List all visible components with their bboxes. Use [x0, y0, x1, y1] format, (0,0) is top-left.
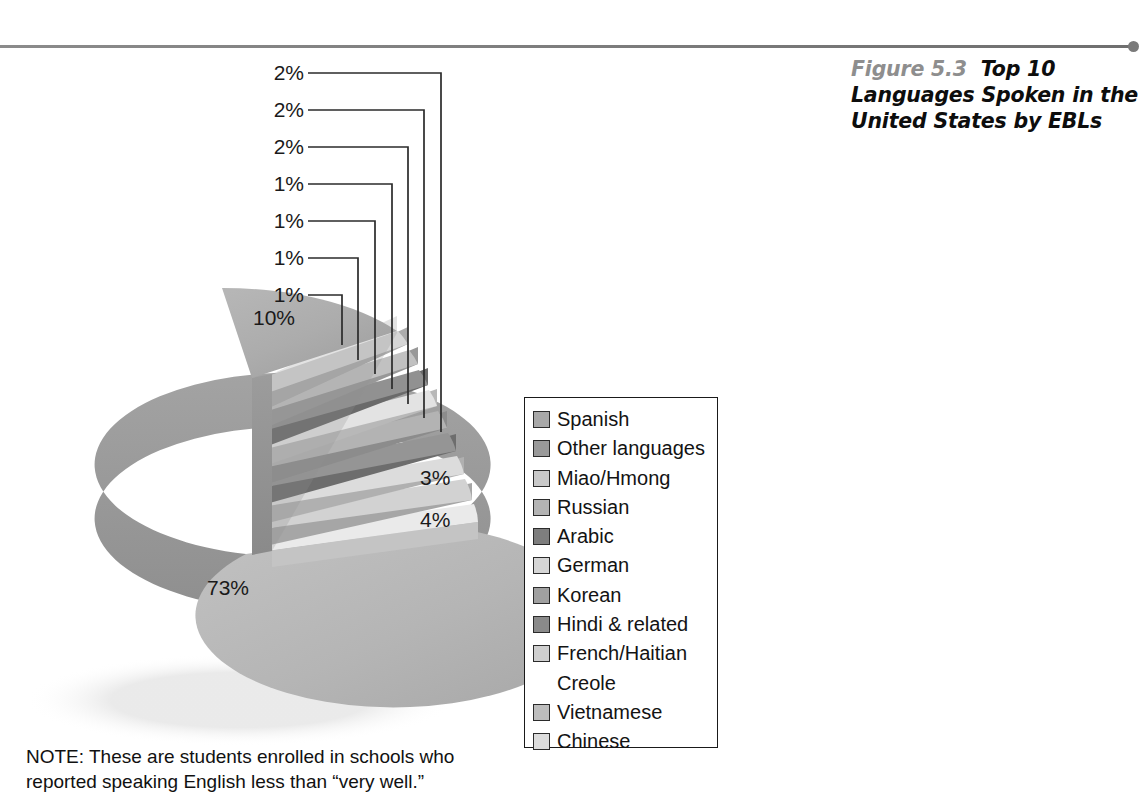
legend-item-label-continuation: Creole [533, 669, 717, 698]
legend-item-label: Other languages [557, 434, 705, 463]
chart-legend: SpanishOther languagesMiao/HmongRussianA… [524, 397, 718, 748]
legend-item[interactable]: Hindi & related [533, 610, 717, 639]
legend-item[interactable]: Spanish [533, 405, 717, 434]
legend-item[interactable]: French/Haitian [533, 639, 717, 668]
legend-swatch-icon [533, 704, 550, 721]
legend-item[interactable]: German [533, 551, 717, 580]
pie-label-3-percent: 3% [420, 466, 450, 490]
legend-item[interactable]: Other languages [533, 434, 717, 463]
leader-label-4: 1% [268, 172, 304, 196]
legend-swatch-icon [533, 645, 550, 662]
chart-note-line-1: NOTE: These are students enrolled in sch… [26, 744, 454, 769]
legend-item[interactable]: Arabic [533, 522, 717, 551]
legend-swatch-icon [533, 557, 550, 574]
leader-label-6: 1% [268, 246, 304, 270]
legend-item-label: Miao/Hmong [557, 464, 670, 493]
legend-item-label: Chinese [557, 727, 630, 756]
legend-swatch-icon [533, 440, 550, 457]
legend-item-label: Arabic [557, 522, 614, 551]
legend-item-label: Spanish [557, 405, 629, 434]
legend-item[interactable]: Korean [533, 581, 717, 610]
leader-label-2: 2% [268, 98, 304, 122]
figure-title: Figure 5.3 Top 10 Languages Spoken in th… [851, 56, 1141, 134]
legend-item-label: Korean [557, 581, 622, 610]
pie-label-73-percent: 73% [207, 576, 249, 600]
leader-lines [0, 0, 740, 460]
legend-swatch-icon [533, 733, 550, 750]
legend-item-label: Hindi & related [557, 610, 688, 639]
legend-item[interactable]: Miao/Hmong [533, 464, 717, 493]
legend-item-label: Russian [557, 493, 629, 522]
header-end-dot [1128, 41, 1139, 52]
legend-item[interactable]: Chinese [533, 727, 717, 756]
leader-label-7: 1% [268, 283, 304, 307]
figure-number: Figure 5.3 [851, 57, 967, 81]
chart-note-line-2: reported speaking English less than “ver… [26, 769, 454, 794]
legend-swatch-icon [533, 616, 550, 633]
legend-item-label: Vietnamese [557, 698, 662, 727]
leader-label-3: 2% [268, 135, 304, 159]
chart-note: NOTE: These are students enrolled in sch… [26, 744, 454, 794]
legend-swatch-icon [533, 587, 550, 604]
legend-swatch-icon [533, 499, 550, 516]
legend-item-label: German [557, 551, 629, 580]
legend-item[interactable]: Russian [533, 493, 717, 522]
pie-label-4-percent: 4% [420, 508, 450, 532]
legend-swatch-icon [533, 470, 550, 487]
figure-title-spacer [967, 57, 981, 81]
leader-label-5: 1% [268, 209, 304, 233]
leader-label-1: 2% [268, 61, 304, 85]
legend-item-label: French/Haitian [557, 639, 687, 668]
legend-swatch-icon [533, 528, 550, 545]
legend-item[interactable]: Vietnamese [533, 698, 717, 727]
legend-swatch-icon [533, 411, 550, 428]
